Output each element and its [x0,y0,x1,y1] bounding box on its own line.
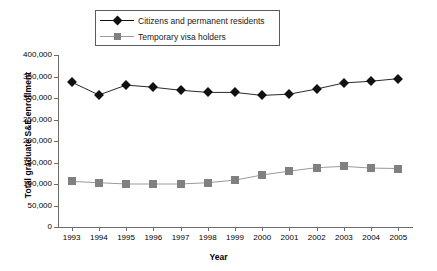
diamond-marker-icon [100,15,134,27]
y-axis-tick-label: 0 [2,222,52,231]
data-point [367,164,375,172]
x-axis-tick [126,227,127,231]
y-axis-tick-label: 150,000 [2,158,52,167]
y-axis-tick-label: 350,000 [2,72,52,81]
x-axis-tick [235,227,236,231]
data-point [258,171,266,179]
x-axis-tick [72,227,73,231]
legend-label-temporary-visa: Temporary visa holders [138,31,226,43]
chart-legend: Citizens and permanent residents Tempora… [95,10,280,46]
data-point [149,180,157,188]
y-axis-tick [54,184,58,185]
line-chart: Citizens and permanent residents Tempora… [0,0,437,271]
y-axis-tick [54,163,58,164]
data-point [340,162,348,170]
y-axis-tick-label: 250,000 [2,115,52,124]
data-point [313,164,321,172]
y-axis-tick [54,55,58,56]
x-axis-tick [371,227,372,231]
x-axis-tick [181,227,182,231]
data-point [231,176,239,184]
data-point [177,180,185,188]
x-axis-tick [99,227,100,231]
data-point [285,167,293,175]
y-axis-tick [54,98,58,99]
x-axis-tick [262,227,263,231]
legend-item-citizens: Citizens and permanent residents [100,14,265,28]
y-axis-tick-label: 300,000 [2,93,52,102]
y-axis-tick [54,227,58,228]
y-axis-tick-labels: 050,000100,000150,000200,000250,000300,0… [0,0,52,271]
y-axis-tick-label: 200,000 [2,136,52,145]
y-axis-tick-label: 400,000 [2,50,52,59]
data-point [204,179,212,187]
x-axis-tick-label: 2005 [381,233,415,242]
x-axis-tick [153,227,154,231]
x-axis-tick [398,227,399,231]
series-lines [58,55,412,227]
plot-area [58,55,412,227]
y-axis-tick [54,77,58,78]
x-axis-tick [344,227,345,231]
y-axis-tick [54,206,58,207]
y-axis-tick [54,141,58,142]
square-marker-icon [100,31,134,43]
x-axis-tick [208,227,209,231]
x-axis-title: Year [0,252,437,262]
y-axis-tick-label: 100,000 [2,179,52,188]
legend-label-citizens: Citizens and permanent residents [138,15,265,27]
y-axis-tick-label: 50,000 [2,201,52,210]
data-point [394,165,402,173]
data-point [95,179,103,187]
data-point [122,180,130,188]
x-axis-tick [317,227,318,231]
y-axis-tick [54,120,58,121]
legend-item-temporary-visa: Temporary visa holders [100,30,226,44]
data-point [68,177,76,185]
x-axis-tick [289,227,290,231]
